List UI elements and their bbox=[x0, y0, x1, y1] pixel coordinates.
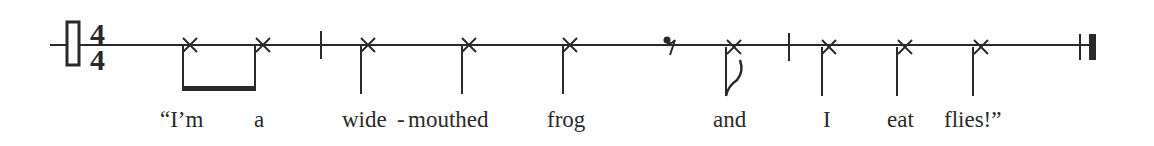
lyric-word: and bbox=[713, 106, 746, 134]
quarter-note bbox=[563, 38, 577, 94]
lyric-word: flies!” bbox=[944, 106, 1001, 134]
quarter-note bbox=[822, 40, 836, 96]
percussion-clef-icon bbox=[67, 22, 79, 65]
lyric-word: frog bbox=[547, 106, 585, 134]
quarter-note bbox=[361, 38, 375, 94]
lyric-word: eat bbox=[887, 106, 914, 134]
lyric-word: wide bbox=[342, 106, 387, 134]
lyric-word: I bbox=[823, 106, 831, 134]
lyric-word: a bbox=[254, 106, 264, 134]
lyric-word: mouthed bbox=[408, 106, 489, 134]
final-barline-thick bbox=[1089, 34, 1096, 60]
time-sig-denominator: 4 bbox=[90, 43, 105, 76]
lyric-word: “I’m bbox=[160, 106, 203, 134]
beam bbox=[182, 86, 256, 91]
eighth-note bbox=[726, 40, 741, 96]
flag bbox=[726, 60, 741, 96]
lyric-hyphen: - bbox=[397, 106, 405, 134]
quarter-note bbox=[462, 38, 476, 94]
quarter-note bbox=[897, 40, 912, 96]
quarter-note bbox=[973, 40, 988, 96]
time-signature: 4 4 bbox=[90, 17, 105, 76]
